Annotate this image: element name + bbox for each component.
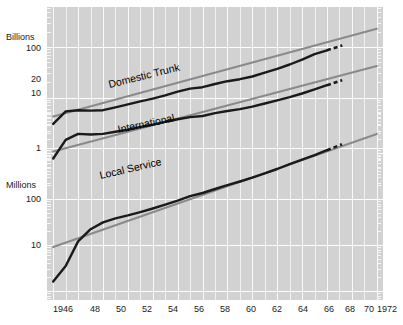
y-tick-millions-10: 10 <box>0 241 41 250</box>
millions-unit-label: Millions <box>6 181 36 190</box>
chart-canvas <box>47 7 383 300</box>
x-tick-60: 60 <box>238 305 264 314</box>
chart-container: Billions 100 20 10 1 Millions 100 10 194… <box>0 0 403 325</box>
x-tick-58: 58 <box>212 305 238 314</box>
x-tick-50: 50 <box>108 305 134 314</box>
y-tick-billions-20: 20 <box>0 75 41 84</box>
billions-unit-label: Billions <box>6 33 35 42</box>
x-tick-48: 48 <box>82 305 108 314</box>
x-tick-64: 64 <box>290 305 316 314</box>
series-projection <box>327 46 342 51</box>
y-tick-billions-1: 1 <box>0 144 41 153</box>
x-tick-56: 56 <box>186 305 212 314</box>
x-tick-1946: 1946 <box>45 305 81 314</box>
plot-area <box>47 7 383 300</box>
y-tick-millions-100: 100 <box>0 195 41 204</box>
x-tick-54: 54 <box>160 305 186 314</box>
x-tick-52: 52 <box>134 305 160 314</box>
trend-line <box>53 29 377 117</box>
series-projection <box>327 80 342 85</box>
x-tick-1972: 1972 <box>371 305 403 314</box>
x-tick-62: 62 <box>264 305 290 314</box>
y-tick-billions-10: 10 <box>0 89 41 98</box>
trend-line <box>53 66 377 152</box>
series-line <box>53 85 327 158</box>
series-line <box>53 50 327 124</box>
y-tick-billions-100: 100 <box>0 44 41 53</box>
series-line <box>53 150 327 281</box>
